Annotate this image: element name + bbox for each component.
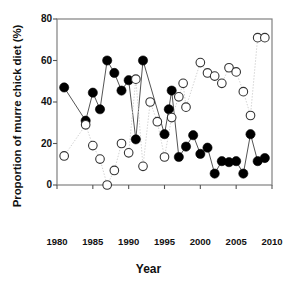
data-point-open-circles xyxy=(160,153,169,162)
data-point-filled-circles xyxy=(167,86,176,95)
data-point-open-circles xyxy=(239,87,248,96)
data-point-filled-circles xyxy=(196,149,205,158)
x-tick-label: 1990 xyxy=(109,236,149,247)
data-point-open-circles xyxy=(232,68,241,77)
data-point-open-circles xyxy=(146,98,155,107)
data-point-filled-circles xyxy=(210,169,219,178)
data-point-filled-circles xyxy=(239,169,248,178)
data-point-open-circles xyxy=(153,117,162,126)
data-point-open-circles xyxy=(218,79,227,88)
data-point-open-circles xyxy=(117,139,126,148)
data-point-open-circles xyxy=(179,79,188,88)
data-point-filled-circles xyxy=(181,142,190,151)
data-point-filled-circles xyxy=(103,56,112,65)
x-tick-label: 1985 xyxy=(73,236,113,247)
data-point-filled-circles xyxy=(174,152,183,161)
data-point-open-circles xyxy=(175,93,184,102)
data-point-open-circles xyxy=(139,162,148,171)
data-point-filled-circles xyxy=(203,143,212,152)
x-tick-label: 2005 xyxy=(216,236,256,247)
data-point-filled-circles xyxy=(246,130,255,139)
data-point-open-circles xyxy=(182,103,191,112)
data-point-open-circles xyxy=(96,155,105,164)
data-point-filled-circles xyxy=(95,105,104,114)
data-point-filled-circles xyxy=(138,56,147,65)
data-point-open-circles xyxy=(210,72,219,81)
data-point-open-circles xyxy=(167,113,176,122)
data-point-open-circles xyxy=(110,166,119,175)
y-tick-label: 20 xyxy=(26,138,52,149)
data-point-open-circles xyxy=(196,58,205,67)
x-tick-label: 1995 xyxy=(145,236,185,247)
data-point-open-circles xyxy=(124,149,133,158)
data-point-open-circles xyxy=(89,141,98,150)
chart-figure: Proportion of murre chick diet (%) Year … xyxy=(0,0,297,290)
data-point-open-circles xyxy=(60,152,69,161)
x-tick-label: 1980 xyxy=(37,236,77,247)
data-point-open-circles xyxy=(246,111,255,120)
y-tick-label: 0 xyxy=(26,179,52,190)
y-tick-label: 80 xyxy=(26,13,52,24)
data-point-open-circles xyxy=(103,181,112,190)
data-point-filled-circles xyxy=(189,131,198,140)
data-point-open-circles xyxy=(261,33,270,42)
y-tick-label: 60 xyxy=(26,55,52,66)
data-point-open-circles xyxy=(81,121,90,130)
data-point-filled-circles xyxy=(88,88,97,97)
data-point-filled-circles xyxy=(160,130,169,139)
data-point-filled-circles xyxy=(232,157,241,166)
data-point-filled-circles xyxy=(131,135,140,144)
data-point-filled-circles xyxy=(117,86,126,95)
y-tick-label: 40 xyxy=(26,96,52,107)
data-point-open-circles xyxy=(132,75,141,84)
x-tick-label: 2000 xyxy=(180,236,220,247)
data-point-filled-circles xyxy=(260,153,269,162)
data-point-filled-circles xyxy=(110,68,119,77)
x-tick-label: 2010 xyxy=(252,236,292,247)
data-point-filled-circles xyxy=(164,105,173,114)
data-point-filled-circles xyxy=(60,83,69,92)
